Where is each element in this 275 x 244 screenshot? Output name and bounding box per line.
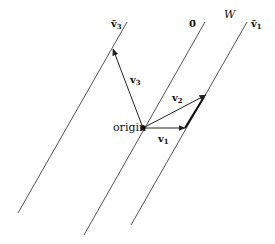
vector-v3-arrow <box>113 49 143 128</box>
coset-line-v1bar <box>131 22 247 225</box>
coset-zerobar-label: 0̄ <box>189 18 196 29</box>
subspace-w-label: W <box>224 8 237 21</box>
vector-v2-label: v2 <box>171 92 183 105</box>
coset-diagram: origin v1 v2 v3 v̄3 0̄ v̄1 W <box>0 0 275 244</box>
bold-segment-v1bar <box>185 97 204 128</box>
origin-label: origin <box>113 121 146 134</box>
coset-v1bar-label: v̄1 <box>250 18 262 31</box>
coset-line-v3bar <box>18 22 127 213</box>
coset-v3bar-label: v̄3 <box>110 18 122 31</box>
vector-v1-label: v1 <box>157 133 169 146</box>
vector-v3-label: v3 <box>129 74 141 87</box>
